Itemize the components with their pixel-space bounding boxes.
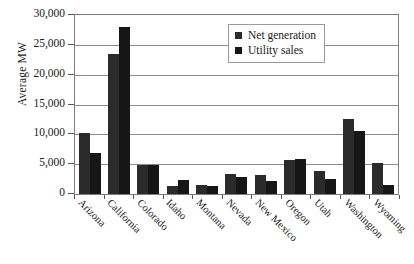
- bar: [90, 153, 101, 194]
- bar: [225, 174, 236, 194]
- bar: [236, 177, 247, 194]
- bar: [167, 186, 178, 194]
- legend-label: Net generation: [248, 30, 316, 42]
- y-axis-tick-label: 0: [5, 187, 65, 199]
- x-axis-tick-label: Utah: [312, 197, 334, 219]
- bar-group: [339, 15, 368, 194]
- bar: [148, 165, 159, 194]
- bar: [108, 54, 119, 194]
- x-axis-tick-label: Idaho: [165, 197, 190, 222]
- legend: Net generation Utility sales: [228, 24, 325, 63]
- y-axis-tick-label: 15,000: [5, 98, 65, 110]
- bar-group: [75, 15, 104, 194]
- bar: [343, 119, 354, 194]
- x-axis-tick-label: Arizona: [76, 197, 108, 229]
- x-axis-tick-labels: ArizonaCaliforniaColoradoIdahoMontanaNev…: [74, 197, 399, 263]
- bar: [137, 165, 148, 194]
- y-axis-tick-label: 25,000: [5, 38, 65, 50]
- bar: [196, 185, 207, 195]
- bar-group: [369, 15, 398, 194]
- bar-group: [134, 15, 163, 194]
- legend-item-net-generation: Net generation: [235, 28, 316, 43]
- legend-swatch-icon: [235, 32, 242, 39]
- bar: [354, 131, 365, 194]
- bar-group: [192, 15, 221, 194]
- bar: [325, 179, 336, 194]
- bar: [178, 180, 189, 194]
- bar-group: [104, 15, 133, 194]
- legend-label: Utility sales: [248, 45, 303, 57]
- legend-swatch-icon: [235, 47, 242, 54]
- y-axis-tick-label: 20,000: [5, 68, 65, 80]
- x-axis-tick-mark: [399, 195, 400, 199]
- y-axis-tick-label: 10,000: [5, 128, 65, 140]
- bar: [383, 185, 394, 195]
- bar: [79, 133, 90, 195]
- bar: [119, 27, 130, 194]
- bar-group: [163, 15, 192, 194]
- bar: [284, 160, 295, 194]
- bar: [295, 159, 306, 194]
- bar: [266, 181, 277, 194]
- bar: [314, 171, 325, 194]
- y-axis-tick-label: 5,000: [5, 157, 65, 169]
- bar: [207, 186, 218, 194]
- bar: [372, 163, 383, 194]
- bar: [255, 175, 266, 194]
- y-axis-tick-label: 30,000: [5, 8, 65, 20]
- legend-item-utility-sales: Utility sales: [235, 43, 316, 58]
- x-axis-tick-label: Montana: [194, 197, 228, 231]
- bar-chart: Average MW 30,00025,00020,00015,00010,00…: [0, 0, 414, 264]
